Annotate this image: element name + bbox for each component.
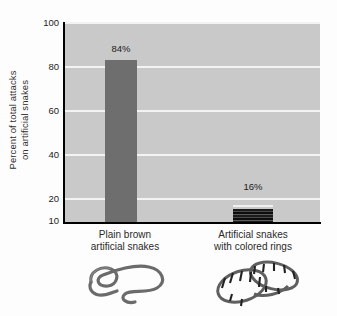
y-tick-label: 80 [31, 62, 59, 72]
snake-ringed-icon [208, 256, 308, 308]
y-tick-label: 40 [31, 150, 59, 160]
x-axis-line [63, 222, 321, 225]
y-tick-label: 20 [31, 194, 59, 204]
y-axis-title-line1: Percent of total attacks [7, 70, 18, 169]
y-tick-label: 60 [31, 106, 59, 116]
bar-value-label-2: 16% [223, 182, 283, 192]
category-label-line1: Artificial snakes [188, 229, 318, 241]
category-label-line1: Plain brown [60, 229, 190, 241]
category-label-colored-rings: Artificial snakes with colored rings [188, 229, 318, 253]
bar-value-label-1: 84% [91, 44, 151, 54]
y-axis-title-line2: on artificial snakes [19, 80, 30, 160]
gridline-60 [65, 110, 320, 112]
category-label-line2: with colored rings [188, 241, 318, 253]
category-label-line2: artificial snakes [60, 241, 190, 253]
snake-plain-icon [83, 258, 179, 308]
y-axis-ticks: 100 80 60 40 20 10 [29, 0, 59, 316]
plot-area: 84% 16% [63, 22, 320, 222]
y-tick-label: 100 [31, 18, 59, 28]
y-axis-title: Percent of total attacks on artificial s… [7, 0, 31, 45]
category-label-plain-brown: Plain brown artificial snakes [60, 229, 190, 253]
bar-cap-band [233, 205, 273, 207]
gridline-20 [65, 198, 320, 200]
chart-figure: Percent of total attacks on artificial s… [0, 0, 337, 316]
gridline-40 [65, 154, 320, 156]
y-tick-label: 10 [31, 216, 59, 226]
gridline-100 [65, 22, 320, 24]
gridline-80 [65, 66, 320, 68]
bar-plain-brown[interactable] [105, 60, 137, 222]
bar-colored-rings[interactable] [233, 209, 273, 222]
